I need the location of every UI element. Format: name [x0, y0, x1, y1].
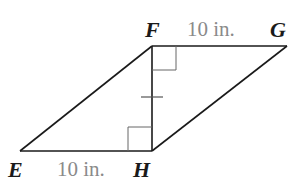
side-EF [20, 46, 152, 151]
measurement-FG: 10 in. [187, 17, 235, 41]
parallelogram-diagram: F G E H 10 in. 10 in. [0, 0, 306, 188]
vertex-label-F: F [144, 17, 160, 42]
vertex-label-G: G [270, 17, 286, 42]
measurement-EH: 10 in. [57, 157, 105, 181]
vertex-label-H: H [132, 157, 151, 182]
right-angle-marker-F [152, 46, 176, 70]
vertex-label-E: E [7, 157, 23, 182]
side-GH [152, 46, 287, 151]
right-angle-marker-H [128, 127, 152, 151]
